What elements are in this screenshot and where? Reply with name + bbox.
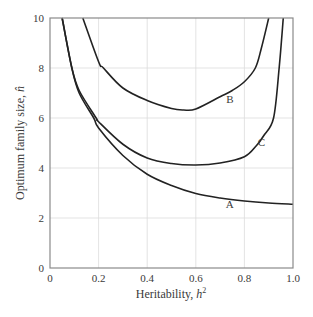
x-tick-label: 0.8 [238, 272, 252, 284]
curve-label-a: A [226, 198, 234, 210]
curve-b [83, 18, 269, 110]
curve-a [62, 18, 293, 204]
plot-frame [50, 18, 293, 268]
curves [62, 18, 293, 204]
curve-labels: ABC [226, 93, 265, 210]
grid-lines [50, 18, 293, 268]
y-tick-label: 4 [39, 162, 45, 174]
y-tick-label: 2 [39, 212, 45, 224]
chart: 00.20.40.60.81.0 0246810 ABC Heritabilit… [0, 0, 313, 317]
curve-c [62, 18, 283, 165]
x-tick-label: 1.0 [286, 272, 300, 284]
y-tick-label: 10 [33, 12, 45, 24]
x-axis-label: Heritability, h2 [136, 286, 207, 301]
y-axis-ticks: 0246810 [33, 12, 45, 274]
curve-label-b: B [226, 93, 233, 105]
curve-label-c: C [258, 136, 265, 148]
x-axis-ticks: 00.20.40.60.81.0 [47, 272, 300, 284]
y-axis-label: Optimum family size, n̂ [13, 86, 27, 200]
x-tick-label: 0 [47, 272, 53, 284]
x-tick-label: 0.4 [140, 272, 154, 284]
x-tick-label: 0.2 [92, 272, 106, 284]
x-tick-label: 0.6 [189, 272, 203, 284]
y-tick-label: 6 [39, 112, 45, 124]
y-tick-label: 8 [39, 62, 45, 74]
y-tick-label: 0 [39, 262, 45, 274]
